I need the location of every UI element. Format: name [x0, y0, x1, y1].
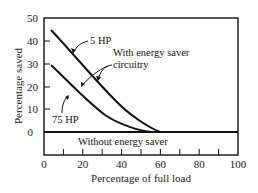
x-tick-label: 100 [230, 158, 247, 170]
x-tick-label: 80 [194, 158, 206, 170]
y-tick-label: 10 [27, 103, 39, 115]
x-tick-label: 60 [155, 158, 167, 170]
label-without-energy-saver: Without energy saver [78, 136, 168, 147]
y-tick-label: 50 [27, 12, 39, 24]
chart: 50 40 30 20 10 0 0 20 40 60 80 100 Perce… [0, 0, 258, 193]
x-ticks [63, 149, 218, 155]
label-circuitry: circuitry [113, 59, 149, 70]
y-axis-title: Percentage saved [12, 47, 24, 124]
label-75hp: 75 HP [52, 114, 79, 125]
y-tick-label: 0 [28, 126, 34, 138]
y-tick-label: 20 [27, 81, 39, 93]
y-tick-label: 30 [27, 58, 39, 70]
label-with-energy-saver: With energy saver [113, 47, 190, 58]
x-axis-title: Percentage of full load [91, 172, 191, 184]
label-5hp: 5 HP [90, 35, 111, 46]
y-ticks [44, 41, 50, 109]
arrow-5hp [73, 41, 88, 53]
x-tick-label: 40 [116, 158, 128, 170]
y-tick-label: 40 [27, 35, 39, 47]
x-tick-label: 20 [77, 158, 89, 170]
x-tick-label: 0 [41, 158, 47, 170]
